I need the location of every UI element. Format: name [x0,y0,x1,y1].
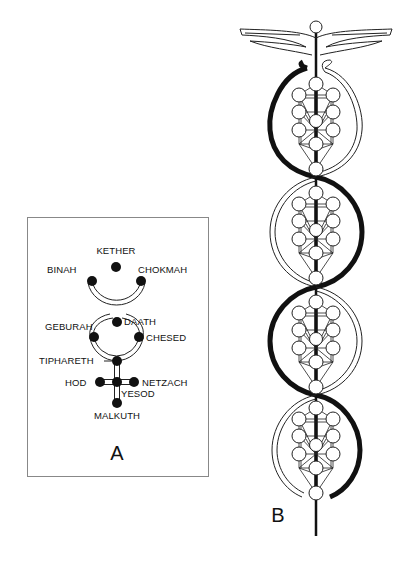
sephiroth-labels: KETHER BINAH CHOKMAH DAATH GEBURAH CHESE… [39,245,188,421]
panel-a-frame [28,218,209,477]
caption-a: A [110,442,124,464]
node-hod [95,377,105,387]
label-kether: KETHER [96,245,135,256]
node-chokmah [136,276,146,286]
panel-a: KETHER BINAH CHOKMAH DAATH GEBURAH CHESE… [28,218,209,477]
label-tiphareth: TIPHARETH [39,355,94,366]
kabbalah-figure: KETHER BINAH CHOKMAH DAATH GEBURAH CHESE… [0,0,412,564]
staff-orb [310,21,322,33]
node-kether [111,262,121,272]
caption-b: B [271,504,284,526]
label-chokmah: CHOKMAH [138,264,187,275]
supernal-arc [92,281,141,300]
panel-b: B [240,21,392,536]
label-hod: HOD [65,377,86,388]
label-chesed: CHESED [146,332,186,343]
label-daath: DAATH [124,316,156,327]
node-netzach [129,377,139,387]
node-chesed [134,332,144,342]
node-daath [112,317,122,327]
sephiroth-nodes [87,262,146,408]
node-geburah [89,332,99,342]
node-binah [87,276,97,286]
label-yesod: YESOD [121,388,155,399]
label-geburah: GEBURAH [45,321,93,332]
label-binah: BINAH [47,264,77,275]
ethical-arc [94,337,139,356]
label-malkuth: MALKUTH [94,410,140,421]
node-tiphareth [112,356,122,366]
node-yesod [112,377,122,387]
node-malkuth [112,398,122,408]
label-netzach: NETZACH [142,377,188,388]
